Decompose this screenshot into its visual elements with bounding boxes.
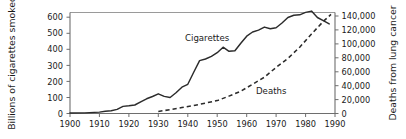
chart-figure: 600 500 400 300 200 100 0 140,000 120,00…: [0, 0, 406, 139]
x-axis-tick-labels: 1900 1910 1920 1930 1940 1950 1960 1970 …: [60, 119, 346, 129]
series-cigarettes-line: [70, 11, 329, 113]
y-axis-right-tick-labels: 140,000 120,000 100,000 80,000 60,000 40…: [342, 11, 376, 119]
y-tick-label: 200: [47, 77, 63, 87]
x-tick-label: 1930: [148, 119, 169, 129]
x-tick-label: 1940: [177, 119, 198, 129]
y-tick-label: 600: [47, 12, 63, 22]
series-group: [70, 11, 331, 113]
y-axis-left-title: Billions of cigarettes smoked: [6, 0, 17, 130]
y2-tick-label: 0: [342, 109, 347, 119]
y2-tick-label: 40,000: [342, 81, 371, 91]
series-label-deaths: Deaths: [256, 86, 287, 96]
y2-tick-label: 80,000: [342, 53, 371, 63]
y2-tick-label: 120,000: [342, 25, 376, 35]
x-tick-label: 1980: [295, 119, 316, 129]
y-tick-label: 0: [58, 109, 63, 119]
y-tick-label: 500: [47, 28, 63, 38]
y2-tick-label: 60,000: [342, 67, 371, 77]
y-tick-label: 300: [47, 61, 63, 71]
plot-frame: [70, 13, 335, 114]
x-tick-label: 1910: [89, 119, 110, 129]
series-label-cigarettes: Cigarettes: [185, 33, 230, 43]
y2-tick-label: 100,000: [342, 39, 376, 49]
x-tick-label: 1950: [207, 119, 228, 129]
x-tick-label: 1960: [236, 119, 257, 129]
x-tick-label: 1990: [325, 119, 346, 129]
x-tick-label: 1900: [60, 119, 81, 129]
y2-tick-label: 140,000: [342, 11, 376, 21]
y-axis-left-tick-labels: 600 500 400 300 200 100 0: [47, 12, 63, 118]
y-tick-label: 400: [47, 44, 63, 54]
y-axis-right-title: Deaths from lung cancer: [387, 5, 398, 120]
cigarettes-vs-lung-cancer-deaths-chart: 600 500 400 300 200 100 0 140,000 120,00…: [0, 0, 406, 139]
y-tick-label: 100: [47, 93, 63, 103]
x-tick-label: 1970: [266, 119, 287, 129]
series-deaths-line: [158, 14, 331, 111]
x-tick-label: 1920: [118, 119, 139, 129]
y2-tick-label: 20,000: [342, 95, 371, 105]
